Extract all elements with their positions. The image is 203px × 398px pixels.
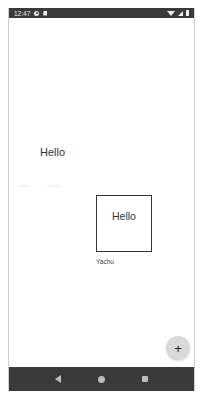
status-time: 12:47 (14, 10, 30, 17)
faint-mark (47, 185, 59, 187)
hello-label: Hello (40, 146, 65, 158)
faint-placeholder (19, 185, 79, 189)
home-icon[interactable] (98, 376, 105, 383)
sd-card-icon (43, 11, 47, 16)
navigation-bar (9, 367, 194, 391)
status-bar: 12:47 (9, 8, 194, 18)
signal-icon (178, 11, 183, 16)
battery-icon (186, 10, 189, 16)
recents-icon[interactable] (142, 376, 148, 382)
card-caption: Yachu (96, 258, 114, 265)
phone-screen: 12:47 Hello Hello Yachu + (8, 8, 195, 391)
add-fab-button[interactable]: + (166, 336, 190, 360)
gear-icon (34, 11, 39, 16)
back-icon[interactable] (55, 375, 61, 383)
faint-mark (19, 185, 29, 187)
card-text: Hello (97, 210, 151, 222)
hello-card[interactable]: Hello (96, 195, 152, 252)
wifi-icon (167, 11, 175, 16)
plus-icon: + (174, 342, 182, 355)
